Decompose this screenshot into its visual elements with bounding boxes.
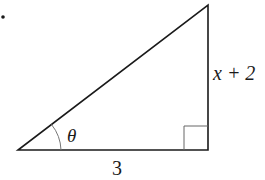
right-angle-marker	[184, 126, 208, 150]
bullet-dot	[1, 15, 5, 19]
right-triangle	[18, 5, 208, 150]
opposite-side-label: x + 2	[212, 62, 255, 84]
adjacent-side-label: 3	[112, 157, 122, 179]
triangle-diagram: θ 3 x + 2	[0, 0, 265, 180]
angle-label-theta: θ	[67, 125, 76, 146]
angle-arc	[52, 125, 62, 151]
